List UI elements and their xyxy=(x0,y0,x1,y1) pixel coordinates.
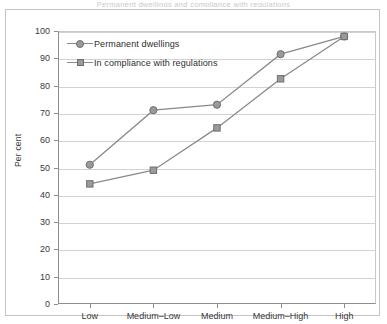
chart-legend: Permanent dwellings In compliance with r… xyxy=(66,34,226,72)
legend-item-in-compliance: In compliance with regulations xyxy=(66,53,226,72)
y-axis-tick-label: 50 xyxy=(24,163,50,173)
data-point-square xyxy=(277,76,283,82)
x-axis-tick-label: Medium–High xyxy=(253,311,309,322)
x-axis-tick-label: Medium xyxy=(201,311,233,322)
x-axis-tick-label: Low xyxy=(82,311,99,322)
data-point-square xyxy=(87,181,93,187)
data-point-circle xyxy=(277,51,284,58)
gridline xyxy=(59,305,375,306)
data-point-circle xyxy=(213,101,220,108)
data-point-circle xyxy=(150,107,157,114)
chart-frame: Per cent 0102030405060708090100 LowMediu… xyxy=(5,9,380,316)
data-point-square xyxy=(341,33,347,39)
circle-marker-icon xyxy=(66,38,94,50)
y-axis-tick-label: 10 xyxy=(24,272,50,282)
legend-item-label: Permanent dwellings xyxy=(94,39,179,49)
y-axis-tick-label: 60 xyxy=(24,135,50,145)
y-axis-tick-label: 20 xyxy=(24,244,50,254)
y-axis-tick-label: 30 xyxy=(24,217,50,227)
y-axis-label: Per cent xyxy=(13,134,23,167)
y-axis-tick-label: 90 xyxy=(24,53,50,63)
square-marker-icon xyxy=(66,57,94,69)
data-point-circle xyxy=(86,161,93,168)
y-axis-tick-mark xyxy=(54,304,58,305)
figure-title: Permanent dwellings and compliance with … xyxy=(0,0,387,7)
x-axis-tick-label: High xyxy=(335,311,354,322)
y-axis-tick-label: 70 xyxy=(24,108,50,118)
x-axis-tick-label: Medium–Low xyxy=(127,311,181,322)
y-axis-tick-label: 40 xyxy=(24,190,50,200)
legend-item-label: In compliance with regulations xyxy=(94,58,218,68)
y-axis-tick-label: 80 xyxy=(24,81,50,91)
legend-item-permanent-dwellings: Permanent dwellings xyxy=(66,34,226,53)
y-axis-tick-label: 0 xyxy=(24,299,50,309)
data-point-square xyxy=(150,167,156,173)
y-axis-tick-label: 100 xyxy=(24,26,50,36)
data-point-square xyxy=(214,125,220,131)
